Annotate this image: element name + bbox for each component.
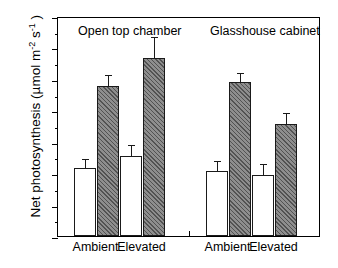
error-bar (240, 74, 241, 82)
panel-title-left: Open top chamber (78, 24, 182, 38)
error-bar (217, 162, 218, 170)
y-tick-15 (52, 144, 58, 145)
y-minor-tick (55, 65, 59, 66)
y-minor-tick (55, 191, 59, 192)
error-bar-cap (283, 113, 290, 114)
bar-open-elevated-hatched (143, 58, 165, 237)
panel-title-right: Glasshouse cabinet (210, 24, 320, 38)
y-axis-title-sup-time: -1 (27, 23, 37, 31)
y-tick-10 (52, 175, 58, 176)
x-tick-label: Elevated (244, 240, 304, 254)
bar-open-elevated-open (120, 156, 142, 236)
bar-glasshouse-ambient-hatched (229, 82, 251, 236)
error-bar (154, 38, 155, 57)
error-bar (85, 160, 86, 168)
y-minor-tick (55, 97, 59, 98)
error-bar-cap (260, 164, 267, 165)
y-tick-35 (52, 18, 58, 19)
y-tick-5 (52, 207, 58, 208)
y-tick-30 (52, 49, 58, 50)
error-bar-cap (151, 37, 158, 38)
plot-area: 05101520253035 Open top chamber Glasshou… (57, 17, 320, 237)
bar-glasshouse-ambient-open (206, 171, 228, 236)
y-tick-25 (52, 81, 58, 82)
error-bar (131, 146, 132, 156)
y-tick-0 (52, 238, 58, 239)
error-bar (263, 165, 264, 175)
y-axis-title-mid: s (28, 31, 43, 42)
bar-glasshouse-elevated-open (252, 175, 274, 236)
y-minor-tick (55, 34, 59, 35)
y-minor-tick (55, 159, 59, 160)
error-bar-cap (128, 145, 135, 146)
figure: Net photosynthesis (µmol m-2 s-1 ) 05101… (0, 0, 338, 268)
error-bar-cap (82, 159, 89, 160)
y-axis-title-text: Net photosynthesis (µmol m (28, 50, 43, 218)
y-axis-title: Net photosynthesis (µmol m-2 s-1 ) (27, 1, 44, 231)
y-minor-tick (55, 128, 59, 129)
error-bar-cap (105, 75, 112, 76)
error-bar (108, 76, 109, 86)
error-bar-cap (237, 73, 244, 74)
bar-open-ambient-hatched (97, 86, 119, 236)
y-axis-title-close: ) (28, 15, 43, 23)
x-tick-label: Elevated (112, 240, 172, 254)
y-tick-20 (52, 112, 58, 113)
y-minor-tick (55, 222, 59, 223)
center-axis-tick (189, 231, 190, 237)
error-bar (286, 114, 287, 123)
error-bar-cap (214, 161, 221, 162)
bar-open-ambient-open (74, 168, 96, 236)
bar-glasshouse-elevated-hatched (275, 124, 297, 237)
y-axis-title-sup-area: -2 (27, 42, 37, 50)
